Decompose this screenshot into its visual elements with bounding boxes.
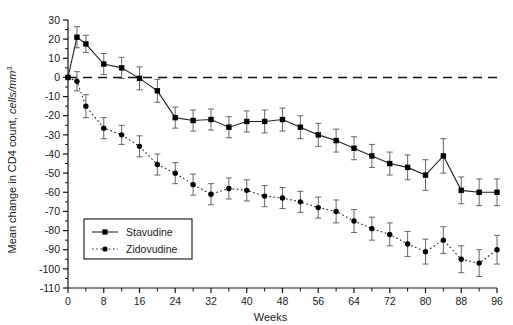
y-tick-label: -30 bbox=[45, 129, 60, 141]
data-point bbox=[244, 119, 249, 124]
data-point bbox=[333, 138, 338, 143]
data-point bbox=[155, 88, 160, 93]
data-point bbox=[190, 182, 195, 187]
data-point bbox=[280, 195, 285, 200]
data-point bbox=[280, 117, 285, 122]
data-point bbox=[333, 209, 338, 214]
y-tick-label: -20 bbox=[45, 109, 60, 121]
data-point bbox=[262, 193, 267, 198]
y-tick-label: 10 bbox=[48, 52, 60, 64]
data-point bbox=[190, 118, 195, 123]
data-point bbox=[423, 172, 428, 177]
x-tick-label: 56 bbox=[312, 295, 324, 307]
data-point bbox=[101, 125, 106, 130]
x-tick-label: 24 bbox=[169, 295, 181, 307]
x-tick-label: 48 bbox=[277, 295, 289, 307]
data-point bbox=[173, 115, 178, 120]
data-point bbox=[316, 132, 321, 137]
x-tick-label: 32 bbox=[205, 295, 217, 307]
y-tick-label: 30 bbox=[48, 14, 60, 26]
data-point bbox=[298, 125, 303, 130]
x-tick-label: 16 bbox=[134, 295, 146, 307]
data-point bbox=[476, 190, 481, 195]
data-point bbox=[83, 41, 88, 46]
legend-marker-zidovudine bbox=[102, 246, 107, 251]
data-point bbox=[65, 75, 70, 80]
data-point bbox=[351, 218, 356, 223]
data-point bbox=[476, 260, 481, 265]
data-point bbox=[351, 146, 356, 151]
data-point bbox=[83, 103, 88, 108]
data-point bbox=[119, 132, 124, 137]
y-axis-title: Mean change in CD4 count, cells/mm3 bbox=[5, 66, 18, 254]
series-stavudine bbox=[65, 27, 500, 206]
data-point bbox=[423, 249, 428, 254]
x-tick-label: 40 bbox=[241, 295, 253, 307]
data-point bbox=[208, 192, 213, 197]
data-point bbox=[441, 153, 446, 158]
x-tick-label: 80 bbox=[420, 295, 432, 307]
chart-canvas: 3020100-10-20-30-40-50-60-70-80-90-100-1… bbox=[0, 0, 513, 325]
data-point bbox=[494, 190, 499, 195]
legend-label-stavudine: Stavudine bbox=[126, 226, 173, 238]
data-point bbox=[387, 232, 392, 237]
x-tick-label: 64 bbox=[348, 295, 360, 307]
y-tick-label: -80 bbox=[45, 224, 60, 236]
data-point bbox=[405, 165, 410, 170]
cd4-change-line-chart: 3020100-10-20-30-40-50-60-70-80-90-100-1… bbox=[0, 0, 513, 325]
y-tick-label: -100 bbox=[39, 263, 60, 275]
data-point bbox=[226, 186, 231, 191]
legend-label-zidovudine: Zidovudine bbox=[126, 243, 178, 255]
data-point bbox=[173, 170, 178, 175]
data-point bbox=[119, 65, 124, 70]
y-tick-label: -60 bbox=[45, 186, 60, 198]
data-point bbox=[459, 188, 464, 193]
data-point bbox=[101, 61, 106, 66]
data-point bbox=[74, 35, 79, 40]
y-tick-label: -10 bbox=[45, 90, 60, 102]
y-tick-label: -90 bbox=[45, 243, 60, 255]
y-tick-label: 20 bbox=[48, 33, 60, 45]
data-point bbox=[208, 117, 213, 122]
x-tick-label: 72 bbox=[384, 295, 396, 307]
x-axis-title: Weeks bbox=[254, 311, 288, 323]
data-point bbox=[74, 79, 79, 84]
x-tick-label: 8 bbox=[101, 295, 107, 307]
y-tick-label: 0 bbox=[54, 71, 60, 83]
data-point bbox=[298, 199, 303, 204]
data-point bbox=[262, 119, 267, 124]
y-tick-label: -50 bbox=[45, 167, 60, 179]
x-tick-label: 0 bbox=[65, 295, 71, 307]
data-point bbox=[137, 144, 142, 149]
data-point bbox=[226, 125, 231, 130]
data-point bbox=[137, 76, 142, 81]
data-point bbox=[155, 162, 160, 167]
x-tick-label: 88 bbox=[455, 295, 467, 307]
y-tick-label: -40 bbox=[45, 148, 60, 160]
data-point bbox=[387, 161, 392, 166]
data-point bbox=[494, 247, 499, 252]
legend-marker-stavudine bbox=[102, 229, 107, 234]
data-point bbox=[405, 241, 410, 246]
data-point bbox=[316, 205, 321, 210]
data-point bbox=[369, 153, 374, 158]
x-tick-label: 96 bbox=[491, 295, 503, 307]
data-point bbox=[459, 257, 464, 262]
data-point bbox=[369, 226, 374, 231]
y-tick-label: -70 bbox=[45, 205, 60, 217]
y-tick-label: -110 bbox=[40, 282, 60, 294]
data-point bbox=[244, 188, 249, 193]
data-point bbox=[441, 237, 446, 242]
